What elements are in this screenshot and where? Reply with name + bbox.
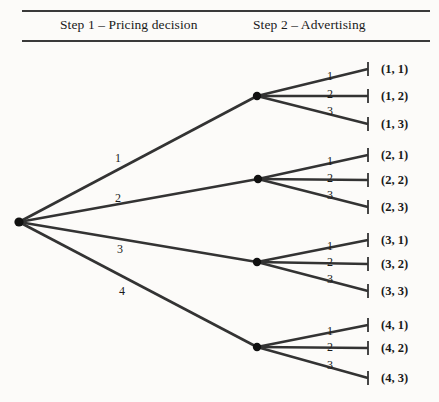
leaf-label-1-3: (1, 3) xyxy=(381,118,408,131)
stage1-edge-label-3: 3 xyxy=(117,243,123,255)
stage2-edge-1-1 xyxy=(257,69,368,96)
stage2-edge-4-3 xyxy=(257,347,368,378)
leaf-label-4-2: (4, 2) xyxy=(381,342,408,355)
stage2-edge-label-3-2: 2 xyxy=(327,256,333,268)
leaf-label-2-1: (2, 1) xyxy=(381,149,408,162)
stage2-edge-2-1 xyxy=(258,155,368,179)
stage2-edge-label-1-1: 1 xyxy=(327,70,333,82)
leaf-label-4-1: (4, 1) xyxy=(381,319,408,332)
stage1-edge-2 xyxy=(19,179,258,222)
leaf-label-2-3: (2, 3) xyxy=(381,201,408,214)
leaf-label-3-1: (3, 1) xyxy=(381,234,408,247)
leaf-label-3-3: (3, 3) xyxy=(381,285,408,298)
stage2-edge-2-3 xyxy=(258,179,368,207)
stage2-edge-2-2 xyxy=(258,179,368,180)
intermediate-node-1 xyxy=(253,92,261,100)
root-node xyxy=(14,217,23,226)
stage2-edge-label-1-2: 2 xyxy=(327,88,333,100)
stage2-edge-label-4-3: 3 xyxy=(327,359,333,371)
stage2-edge-1-3 xyxy=(257,96,368,124)
stage2-edge-label-2-2: 2 xyxy=(327,172,333,184)
leaf-label-3-2: (3, 2) xyxy=(381,258,408,271)
stage1-edge-label-1: 1 xyxy=(115,152,121,164)
stage1-edge-label-4: 4 xyxy=(119,285,125,297)
leaf-label-2-2: (2, 2) xyxy=(381,174,408,187)
stage1-edge-1 xyxy=(19,96,257,222)
leaf-label-1-1: (1, 1) xyxy=(381,63,408,76)
stage1-edge-label-2: 2 xyxy=(115,192,121,204)
leaf-label-4-3: (4, 3) xyxy=(381,372,408,385)
intermediate-node-4 xyxy=(253,343,261,351)
stage2-edge-4-2 xyxy=(257,347,368,348)
stage2-edge-label-1-3: 3 xyxy=(327,105,333,117)
intermediate-node-2 xyxy=(254,175,262,183)
stage2-edge-label-4-2: 2 xyxy=(327,341,333,353)
stage2-edge-3-1 xyxy=(257,240,368,262)
intermediate-node-3 xyxy=(253,258,261,266)
stage2-edge-4-1 xyxy=(257,325,368,347)
stage2-edge-3-2 xyxy=(257,262,368,264)
leaf-label-1-2: (1, 2) xyxy=(381,90,408,103)
stage2-edge-label-3-3: 3 xyxy=(327,273,333,285)
stage2-edge-label-2-1: 1 xyxy=(327,155,333,167)
stage2-edge-3-3 xyxy=(257,262,368,291)
stage2-edge-label-2-3: 3 xyxy=(327,189,333,201)
stage2-edge-label-3-1: 1 xyxy=(327,240,333,252)
stage2-edge-label-4-1: 1 xyxy=(327,325,333,337)
decision-tree-figure: Step 1 – Pricing decision Step 2 – Adver… xyxy=(0,0,439,402)
tree-graphics xyxy=(0,0,439,402)
